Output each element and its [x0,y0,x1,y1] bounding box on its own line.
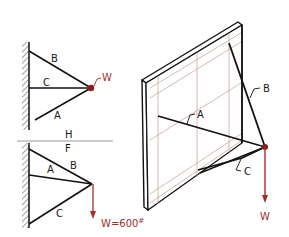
load-unit-bottom: # [138,217,144,225]
label-h: H [65,129,73,140]
load-arrow-head-bottom [90,211,96,219]
label-f: F [65,143,71,154]
iso-figure: A B C W [142,22,270,222]
label-b-iso: B [263,83,270,94]
label-c-top: C [43,77,50,88]
label-a-top: A [54,110,61,121]
label-w-top: W [102,72,112,83]
load-leader-top [94,78,101,86]
label-c-iso: C [244,166,251,177]
member-a-top [35,88,91,120]
label-a-bottom: A [47,164,54,175]
label-a-iso: A [197,109,204,120]
wall-hatch-bottom [22,143,29,228]
member-b-top [29,51,91,88]
leader-c-iso [236,159,241,171]
top-left-figure: B C A W [22,42,112,130]
load-label-iso: W [260,211,270,222]
label-b-bottom: B [70,160,77,171]
load-point-top [88,85,94,91]
bottom-left-figure: B A C W=600# [22,143,144,229]
wall-hatch-top [22,42,29,130]
load-value-bottom: W=600 [101,218,138,229]
load-label-bottom: W=600# [101,217,144,229]
label-b-top: B [51,53,58,64]
leader-b-iso [250,88,260,98]
label-c-bottom: C [56,208,63,219]
truss-diagram: B C A W H F B A C W=600# [0,0,289,237]
load-arrow-head-iso [262,195,268,203]
